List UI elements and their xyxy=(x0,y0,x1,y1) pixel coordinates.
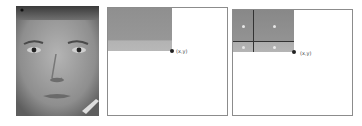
point-marker-icon xyxy=(170,49,174,53)
point-marker-icon xyxy=(292,50,296,54)
cell-center-icon xyxy=(273,46,276,49)
integral-region xyxy=(108,8,172,51)
point-label: (x,y) xyxy=(300,50,311,56)
face-image xyxy=(16,6,99,116)
cell-center-icon xyxy=(242,46,245,49)
subdivided-region-panel: (x,y) xyxy=(232,9,353,116)
cell-center-icon xyxy=(242,25,245,28)
integral-region-panel: (x,y) xyxy=(107,7,228,116)
point-label: (x,y) xyxy=(176,48,187,54)
grid-line-vertical xyxy=(253,10,254,52)
grid-line-horizontal xyxy=(233,41,294,42)
subdivided-region xyxy=(233,10,294,52)
cell-center-icon xyxy=(273,25,276,28)
face-photo-icon xyxy=(16,6,99,116)
